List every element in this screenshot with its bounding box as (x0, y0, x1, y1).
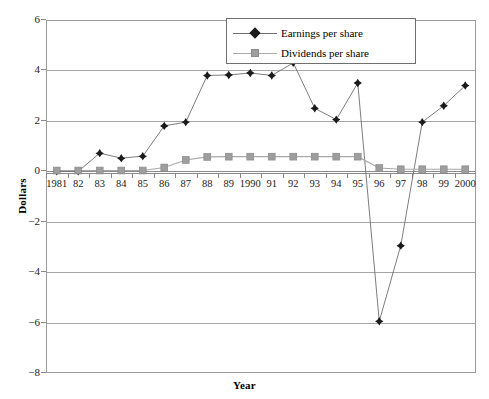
data-point (160, 122, 168, 130)
data-point (117, 154, 125, 162)
data-point (225, 71, 233, 79)
data-point (311, 104, 319, 112)
chart-legend: Earnings per share Dividends per share (226, 18, 416, 64)
data-point (268, 71, 276, 79)
series-dividends (53, 153, 468, 174)
legend-item-earnings: Earnings per share (233, 23, 409, 43)
data-point (354, 79, 362, 87)
data-point (182, 118, 190, 126)
data-point (247, 153, 254, 160)
data-point (53, 167, 60, 174)
data-point (440, 166, 447, 173)
data-point (96, 167, 103, 174)
data-point (203, 71, 211, 79)
data-point (75, 167, 82, 174)
data-point (462, 166, 469, 173)
data-point (118, 167, 125, 174)
series-line (57, 63, 466, 321)
data-point (333, 153, 340, 160)
diamond-marker-icon (233, 27, 277, 39)
legend-label-dividends: Dividends per share (277, 47, 369, 59)
data-point (204, 154, 211, 161)
legend-label-earnings: Earnings per share (277, 27, 363, 39)
data-point (290, 153, 297, 160)
data-point (354, 153, 361, 160)
data-point (311, 153, 318, 160)
data-point (139, 167, 146, 174)
data-point (375, 317, 383, 325)
data-point (139, 152, 147, 160)
data-point (332, 115, 340, 123)
series-earnings (53, 59, 470, 326)
data-point (182, 157, 189, 164)
legend-item-dividends: Dividends per share (233, 43, 409, 63)
data-point (397, 241, 405, 249)
data-point (268, 153, 275, 160)
data-point (419, 166, 426, 173)
data-point (418, 118, 426, 126)
data-point (161, 164, 168, 171)
data-point (397, 166, 404, 173)
chart-container: 6420−2−4−6−8 Dollars 1981828384858687888… (0, 0, 489, 399)
data-point (376, 165, 383, 172)
square-marker-icon (233, 47, 277, 59)
data-point (225, 153, 232, 160)
data-point (246, 69, 254, 77)
